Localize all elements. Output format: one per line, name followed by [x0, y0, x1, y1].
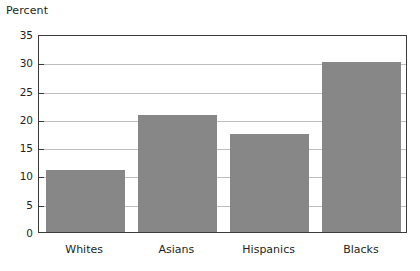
- y-tick-label-5: 5: [3, 199, 33, 211]
- bar-hispanics: [230, 134, 309, 232]
- y-tick-label-15: 15: [3, 142, 33, 154]
- y-tick-mark-15: [39, 149, 44, 150]
- y-tick-label-0: 0: [3, 227, 33, 239]
- y-tick-mark-20: [39, 121, 44, 122]
- y-tick-label-30: 30: [3, 57, 33, 69]
- y-axis-title: Percent: [6, 4, 48, 17]
- x-axis-category-labels: WhitesAsiansHispanicsBlacks: [38, 243, 407, 263]
- x-label-whites: Whites: [65, 243, 103, 256]
- x-label-blacks: Blacks: [343, 243, 379, 256]
- y-tick-label-25: 25: [3, 86, 33, 98]
- y-tick-label-35: 35: [3, 29, 33, 41]
- y-tick-mark-25: [39, 93, 44, 94]
- bar-blacks: [322, 62, 401, 232]
- plot-area: [38, 35, 407, 233]
- y-tick-mark-30: [39, 64, 44, 65]
- y-tick-mark-10: [39, 177, 44, 178]
- y-axis-tick-labels: 05101520253035: [0, 35, 33, 233]
- bar-chart-screenshot: Percent 05101520253035 WhitesAsiansHispa…: [0, 0, 420, 271]
- y-tick-label-10: 10: [3, 170, 33, 182]
- y-tick-mark-5: [39, 206, 44, 207]
- y-tick-label-20: 20: [3, 114, 33, 126]
- x-label-hispanics: Hispanics: [242, 243, 295, 256]
- x-label-asians: Asians: [158, 243, 194, 256]
- bar-asians: [138, 115, 217, 232]
- bar-whites: [46, 170, 125, 232]
